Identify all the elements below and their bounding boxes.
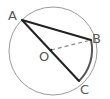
- circle-diagram: A B C O: [0, 0, 110, 99]
- label-b: B: [92, 31, 101, 46]
- radius-ob-dashed: [51, 40, 91, 50]
- center-point-o: [50, 49, 53, 52]
- label-a: A: [8, 8, 17, 23]
- label-o: O: [39, 49, 49, 64]
- label-c: C: [80, 82, 89, 97]
